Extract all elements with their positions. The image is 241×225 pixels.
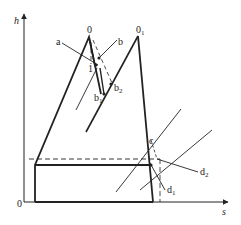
line-b [100, 40, 117, 57]
thin-line-1 [76, 68, 97, 110]
s-axis-label: s [222, 206, 226, 217]
label-b2: b2 [114, 82, 123, 95]
point-c [149, 163, 152, 166]
thin-line-d2 [157, 159, 198, 172]
h-axis-label: h [14, 15, 19, 26]
point-b [97, 56, 100, 59]
label-d2: d2 [200, 166, 209, 179]
origin-label: 0 [17, 198, 22, 209]
label-0: 0 [87, 24, 92, 35]
line-01-down [138, 36, 153, 202]
dashed-0-b2 [93, 40, 112, 83]
label-a: a [56, 36, 61, 47]
cycle-outline-left [35, 37, 101, 202]
hs-diagram: h s 0 0 01 a b 1 b1 b2 c d1 d2 [0, 0, 241, 225]
label-c: c [149, 135, 154, 146]
point-1 [94, 63, 97, 66]
thin-line-upper-right [116, 109, 181, 192]
label-01: 01 [136, 24, 145, 37]
label-b: b [118, 36, 123, 47]
point-b2 [109, 82, 112, 85]
point-b1 [102, 92, 105, 95]
label-b1: b1 [94, 92, 103, 105]
label-d1: d1 [167, 184, 176, 197]
label-1: 1 [88, 63, 93, 74]
